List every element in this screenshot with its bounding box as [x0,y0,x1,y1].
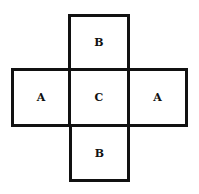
cell-label: B [94,36,103,49]
net-cell-bottom: B [69,124,130,182]
cell-label: A [153,91,162,104]
cell-label: B [95,147,104,160]
cell-label: A [37,91,46,104]
cell-label: C [95,91,104,104]
net-cell-left: A [11,68,71,127]
net-cell-right: A [127,68,188,127]
net-cell-top: B [68,14,130,71]
net-cell-center: C [68,68,130,127]
